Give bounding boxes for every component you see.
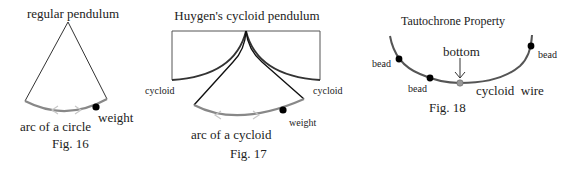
- fig16-arc-label: arc of a circle: [20, 119, 91, 134]
- figure-16-regular-pendulum: regular pendulum weight arc of a circle …: [20, 6, 134, 151]
- fig16-left-string: [25, 22, 68, 101]
- fig17-cycloid-arc: [194, 99, 304, 115]
- fig18-bead-label-3: bead: [538, 49, 557, 60]
- fig18-bead-label-1: bead: [372, 58, 391, 69]
- fig17-arc-label: arc of a cycloid: [191, 127, 272, 142]
- fig17-right-cycloid-cheek: [246, 31, 320, 80]
- fig16-right-string: [68, 22, 107, 99]
- fig18-bottom-label: bottom: [443, 44, 480, 59]
- fig17-caption: Fig. 17: [230, 146, 267, 161]
- fig17-right-string: [246, 31, 304, 99]
- fig17-weight-label: weight: [289, 117, 316, 128]
- fig18-bead-1: [396, 56, 403, 63]
- fig18-bead-label-2: bead: [408, 83, 427, 94]
- fig18-title: Tautochrone Property: [401, 14, 505, 28]
- figure-18-tautochrone: Tautochrone Property bottom bead bead be…: [372, 14, 557, 115]
- fig18-bottom-marker: [457, 80, 463, 86]
- diagram-canvas: regular pendulum weight arc of a circle …: [0, 0, 577, 173]
- figure-17-cycloid-pendulum: Huygen's cycloid pendulum cycloid cycloi…: [145, 8, 342, 161]
- fig18-bead-3: [528, 43, 535, 50]
- fig17-cycloid-right-label: cycloid: [313, 85, 342, 96]
- fig18-bead-2: [427, 75, 434, 82]
- fig17-weight-dot: [279, 106, 286, 113]
- fig18-cycloid-wire: [390, 35, 532, 83]
- fig16-weight-label: weight: [98, 110, 134, 125]
- fig17-frame: [172, 31, 320, 80]
- fig16-title: regular pendulum: [27, 6, 119, 21]
- fig17-left-cycloid-cheek: [172, 31, 246, 80]
- fig18-caption: Fig. 18: [429, 100, 466, 115]
- fig16-caption: Fig. 16: [52, 136, 89, 151]
- fig18-wire-label: cycloid wire: [476, 83, 544, 98]
- fig17-cycloid-left-label: cycloid: [145, 85, 174, 96]
- fig17-title: Huygen's cycloid pendulum: [174, 8, 319, 23]
